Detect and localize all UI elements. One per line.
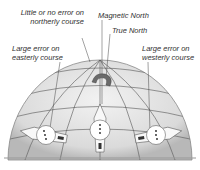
label-line: northerly course [14, 17, 84, 26]
label-easterly: Large error on easterly course [12, 44, 63, 62]
label-little-error: Little or no error on northerly course [14, 8, 84, 26]
compass-icon [90, 120, 110, 140]
compass-icon [37, 126, 56, 145]
label-magnetic-north: Magnetic North [98, 11, 149, 20]
label-line: Large error on [12, 44, 63, 53]
label-westerly: Large error on westerly course [142, 44, 194, 62]
label-line: westerly course [142, 53, 194, 62]
label-line: easterly course [12, 53, 63, 62]
label-line: Little or no error on [14, 8, 84, 17]
label-line: Large error on [142, 44, 194, 53]
label-true-north: True North [112, 26, 147, 35]
